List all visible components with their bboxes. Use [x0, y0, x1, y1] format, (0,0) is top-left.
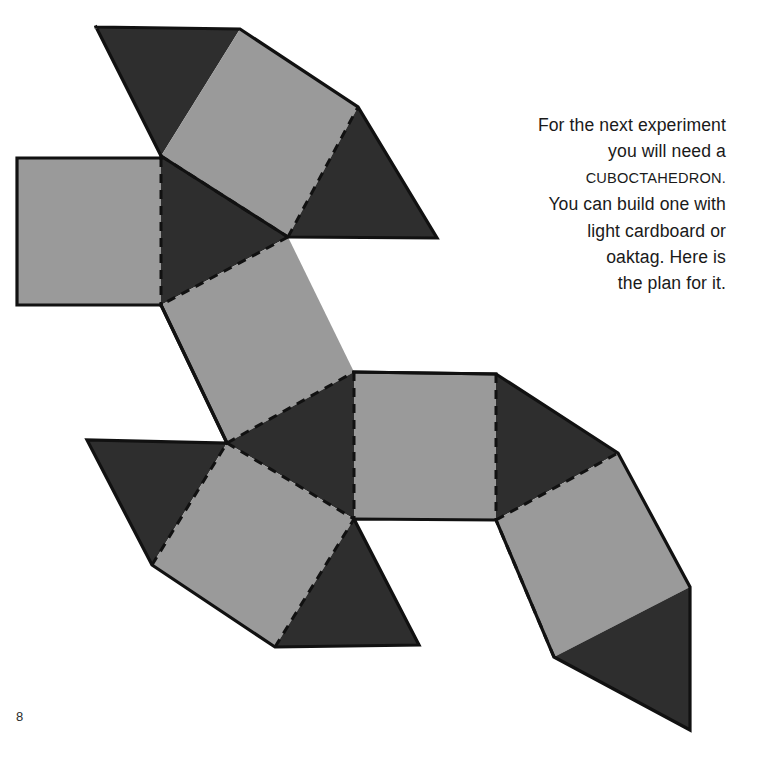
page-canvas: For the next experiment you will need a … — [0, 0, 758, 763]
face-square-left — [17, 158, 161, 305]
caption-text-block: For the next experiment you will need a … — [452, 112, 726, 297]
caption-line-7: the plan for it. — [452, 270, 726, 296]
caption-line-4: You can build one with — [452, 191, 726, 217]
face-square-right — [354, 372, 496, 520]
caption-line-1: For the next experiment — [452, 112, 726, 138]
outline-right-square-top — [354, 372, 496, 374]
caption-line-2: you will need a — [452, 138, 726, 164]
caption-line-5: light cardboard or — [452, 218, 726, 244]
caption-line-6: oaktag. Here is — [452, 244, 726, 270]
page-number: 8 — [16, 709, 23, 724]
caption-line-3-cuboctahedron: CUBOCTAHEDRON. — [452, 165, 726, 191]
